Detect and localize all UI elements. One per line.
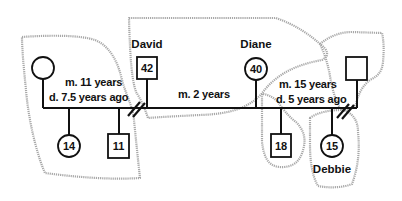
- child-14-age: 14: [63, 140, 76, 152]
- first-marriage-duration: m. 11 years: [65, 76, 122, 88]
- david-name-label: David: [131, 38, 162, 50]
- divorce-slash-first-2: [133, 103, 145, 117]
- diane-age: 40: [250, 63, 262, 75]
- child-11-age: 11: [113, 140, 125, 152]
- debbie-age: 15: [326, 140, 338, 152]
- child-18-age: 18: [275, 140, 287, 152]
- ex-husband-symbol: [346, 57, 367, 80]
- david-age: 42: [141, 62, 153, 74]
- debbie-name-label: Debbie: [313, 163, 351, 175]
- diane-name-label: Diane: [240, 38, 271, 50]
- first-marriage-divorce: d. 7.5 years ago: [49, 91, 129, 103]
- diane-prior-marriage-divorce: d. 5 years ago: [276, 93, 347, 105]
- diane-prior-marriage-duration: m. 15 years: [279, 78, 337, 90]
- current-marriage-duration: m. 2 years: [178, 88, 230, 100]
- ex-wife-symbol: [32, 57, 54, 79]
- genogram-diagram: David 42 Diane 40 m. 11 years d. 7.5 yea…: [0, 0, 402, 201]
